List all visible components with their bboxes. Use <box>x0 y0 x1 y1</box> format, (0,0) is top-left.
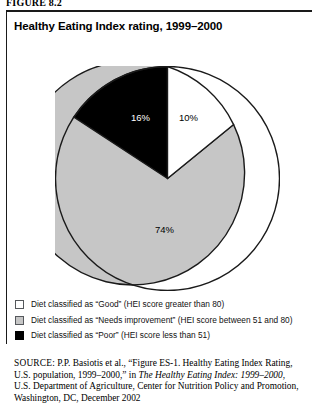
pie-chart <box>55 66 280 291</box>
figure-number-caption: FIGURE 8.2 <box>6 0 62 8</box>
legend-item-needs-improvement: Diet classified as “Needs improvement” (… <box>15 315 305 326</box>
legend-label-good: Diet classified as “Good” (HEI score gre… <box>31 299 224 310</box>
legend-item-good: Diet classified as “Good” (HEI score gre… <box>15 299 305 310</box>
source-note-label: SOURCE: <box>14 358 55 368</box>
legend-swatch-poor-icon <box>15 331 24 340</box>
legend-swatch-needs-improvement-icon <box>15 316 24 325</box>
legend-label-poor: Diet classified as “Poor” (HEI score les… <box>31 330 210 341</box>
pie-label-poor: 16% <box>131 112 150 123</box>
pie-label-good: 10% <box>179 112 198 123</box>
legend-swatch-good-icon <box>15 300 24 309</box>
legend-label-needs-improvement: Diet classified as “Needs improvement” (… <box>31 315 292 326</box>
source-note-publication-title: The Healthy Eating Index: 1999–2000 <box>138 370 282 380</box>
pie-chart-svg <box>55 66 280 291</box>
source-note: SOURCE: P.P. Basiotis et al., “Figure ES… <box>14 358 302 404</box>
chart-title: Healthy Eating Index rating, 1999–2000 <box>14 20 222 32</box>
legend-item-poor: Diet classified as “Poor” (HEI score les… <box>15 330 305 341</box>
pie-label-needs-improvement: 74% <box>155 224 174 235</box>
chart-legend: Diet classified as “Good” (HEI score gre… <box>15 299 305 346</box>
